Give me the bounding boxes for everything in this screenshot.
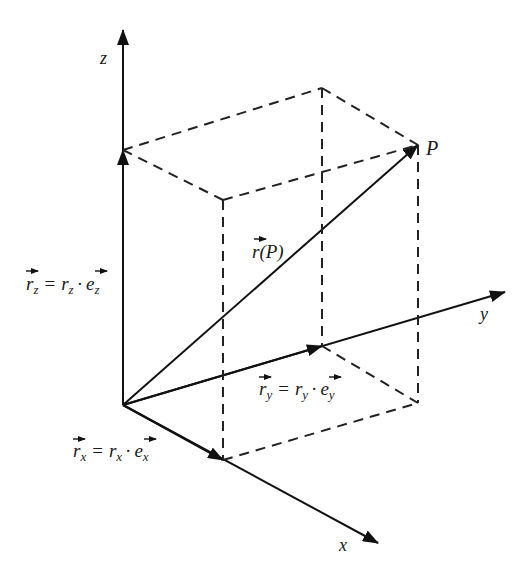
svg-text:r(P): r(P) [252, 241, 284, 263]
svg-text:rx=rx·ex: rx=rx·ex [73, 440, 149, 464]
rP-vector [123, 145, 418, 405]
svg-text:rz=rz·ez: rz=rz·ez [26, 273, 99, 297]
z-axis-label: z [99, 48, 107, 68]
y-axis-label: y [478, 304, 488, 324]
x-axis-label: x [338, 535, 347, 555]
rP-label: r(P) [252, 239, 284, 263]
rx-label: rx=rx·ex [73, 439, 156, 464]
point-P-label: P [425, 137, 438, 159]
svg-text:ry=ry·ey: ry=ry·ey [259, 378, 335, 402]
coordinate-diagram: z y x P r(P) rz=rz·ez ry=ry·ey rx=rx·ex [0, 0, 528, 579]
rz-label: rz=rz·ez [26, 271, 107, 297]
ry-label: ry=ry·ey [259, 377, 341, 402]
